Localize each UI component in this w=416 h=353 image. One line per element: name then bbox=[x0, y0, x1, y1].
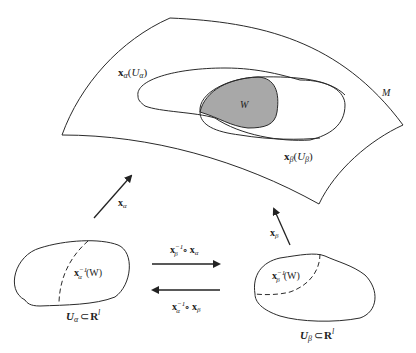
label-transition-backward: x−1α∘xβ bbox=[172, 300, 201, 315]
label-manifold-m: M bbox=[381, 87, 391, 98]
map-arrow-alpha bbox=[94, 176, 131, 218]
overlap-region-w bbox=[200, 77, 278, 128]
label-map-beta: xβ bbox=[270, 227, 279, 240]
label-preimage-alpha: x−1α(W) bbox=[74, 266, 102, 281]
chart-domain-beta bbox=[254, 254, 375, 321]
label-domain-beta: Uβ⊂Rl bbox=[300, 327, 335, 343]
label-domain-alpha: Uα⊂Rl bbox=[66, 308, 101, 324]
chart-domain-alpha bbox=[14, 241, 129, 306]
manifold-diagram: xα(Uα) W M xβ(Uβ) xα xβ x−1α(W) Uα⊂Rl x−… bbox=[0, 0, 416, 353]
label-preimage-beta: x−1β(W) bbox=[272, 269, 300, 284]
label-image-beta: xβ(Uβ) bbox=[284, 150, 313, 164]
label-map-alpha: xα bbox=[118, 197, 127, 210]
label-image-alpha: xα(Uα) bbox=[118, 66, 148, 80]
label-transition-forward: x−1β∘xα bbox=[170, 243, 199, 258]
